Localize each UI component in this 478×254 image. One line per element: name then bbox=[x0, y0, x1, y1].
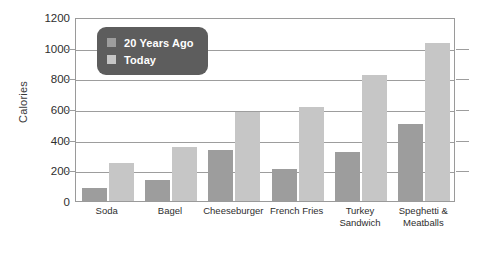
y-axis-right-tick-marks bbox=[456, 18, 470, 202]
legend-label: 20 Years Ago bbox=[124, 37, 194, 49]
x-axis-category-label: French Fries bbox=[265, 205, 328, 217]
tick-mark bbox=[66, 79, 75, 80]
bar bbox=[362, 75, 387, 201]
bar bbox=[82, 188, 107, 201]
tick-mark bbox=[456, 171, 469, 172]
bar-group bbox=[203, 19, 266, 201]
bar bbox=[272, 169, 297, 201]
legend-entry-20-years-ago: 20 Years Ago bbox=[107, 34, 194, 51]
bar bbox=[145, 180, 170, 201]
x-axis-category-label: Soda bbox=[75, 205, 138, 217]
y-axis-tick-label: 600 bbox=[24, 104, 70, 116]
legend-label: Today bbox=[124, 54, 156, 66]
bar bbox=[235, 112, 260, 201]
y-axis-tick-label: 0 bbox=[24, 196, 70, 208]
bar-group bbox=[266, 19, 329, 201]
x-axis-category-labels: SodaBagelCheeseburgerFrench FriesTurkey … bbox=[75, 205, 455, 251]
bar bbox=[109, 163, 134, 201]
bar bbox=[172, 147, 197, 201]
tick-mark bbox=[456, 141, 469, 142]
tick-mark bbox=[456, 79, 469, 80]
x-axis-category-label: Bagel bbox=[138, 205, 201, 217]
tick-mark bbox=[66, 141, 75, 142]
y-axis-tick-label: 1000 bbox=[24, 43, 70, 55]
tick-mark bbox=[66, 110, 75, 111]
bar bbox=[299, 107, 324, 201]
bar bbox=[208, 150, 233, 201]
legend-entry-today: Today bbox=[107, 51, 194, 68]
tick-mark bbox=[66, 171, 75, 172]
y-axis-tick-label: 400 bbox=[24, 135, 70, 147]
bar bbox=[425, 43, 450, 201]
bar bbox=[335, 152, 360, 201]
x-axis-category-label: Cheeseburger bbox=[202, 205, 265, 217]
legend-swatch-icon bbox=[107, 38, 116, 47]
y-axis-tick-label: 200 bbox=[24, 165, 70, 177]
y-axis-tick-labels: 020040060080010001200 bbox=[24, 18, 70, 202]
calories-bar-chart: Calories 020040060080010001200 SodaBagel… bbox=[0, 0, 478, 254]
bar-group bbox=[329, 19, 392, 201]
legend-swatch-icon bbox=[107, 55, 116, 64]
bar-group bbox=[393, 19, 456, 201]
bar bbox=[398, 124, 423, 201]
x-axis-category-label: Turkey Sandwich bbox=[328, 205, 391, 228]
tick-mark bbox=[456, 49, 469, 50]
tick-mark bbox=[66, 49, 75, 50]
y-axis-tick-label: 1200 bbox=[24, 12, 70, 24]
chart-legend: 20 Years Ago Today bbox=[97, 27, 208, 75]
tick-mark bbox=[456, 110, 469, 111]
y-axis-tick-label: 800 bbox=[24, 73, 70, 85]
x-axis-category-label: Speghetti & Meatballs bbox=[392, 205, 455, 228]
